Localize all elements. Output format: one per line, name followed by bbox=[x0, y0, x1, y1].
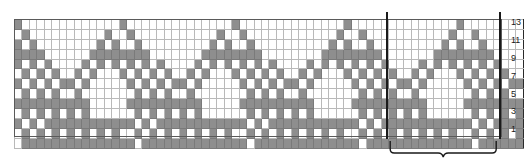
chart-cell bbox=[516, 138, 524, 148]
chart-cell bbox=[22, 99, 29, 109]
chart-cell bbox=[284, 99, 291, 109]
chart-cell bbox=[314, 99, 321, 109]
chart-cell bbox=[351, 89, 358, 99]
chart-cell bbox=[321, 59, 328, 69]
chart-cell bbox=[276, 79, 283, 89]
chart-cell bbox=[389, 20, 396, 30]
chart-cell bbox=[127, 109, 134, 119]
chart-cell bbox=[486, 118, 493, 128]
chart-cell bbox=[314, 109, 321, 119]
chart-cell bbox=[89, 49, 96, 59]
chart-cell bbox=[89, 39, 96, 49]
chart-cell bbox=[127, 69, 134, 79]
chart-cell bbox=[187, 128, 194, 138]
chart-cell bbox=[396, 109, 403, 119]
chart-cell bbox=[419, 59, 426, 69]
chart-cell bbox=[179, 29, 186, 39]
chart-cell bbox=[351, 69, 358, 79]
chart-cell bbox=[29, 128, 36, 138]
chart-cell bbox=[29, 89, 36, 99]
chart-cell bbox=[269, 20, 276, 30]
chart-cell bbox=[411, 79, 418, 89]
chart-cell bbox=[104, 118, 111, 128]
chart-cell bbox=[82, 109, 89, 119]
chart-cell bbox=[194, 99, 201, 109]
chart-cell bbox=[209, 79, 216, 89]
chart-cell bbox=[291, 118, 298, 128]
chart-cell bbox=[224, 49, 231, 59]
chart-cell bbox=[29, 138, 36, 148]
chart-cell bbox=[74, 29, 81, 39]
chart-cell bbox=[486, 128, 493, 138]
chart-cell bbox=[142, 20, 149, 30]
chart-cell bbox=[15, 109, 22, 119]
chart-cell bbox=[419, 99, 426, 109]
repeat-brace bbox=[386, 140, 500, 160]
chart-cell bbox=[104, 89, 111, 99]
chart-cell bbox=[224, 138, 231, 148]
chart-cell bbox=[329, 99, 336, 109]
chart-cell bbox=[209, 69, 216, 79]
chart-cell bbox=[276, 29, 283, 39]
chart-cell bbox=[119, 29, 126, 39]
chart-cell bbox=[411, 59, 418, 69]
chart-cell bbox=[67, 20, 74, 30]
chart-cell bbox=[501, 118, 508, 128]
chart-cell bbox=[127, 138, 134, 148]
chart-cell bbox=[232, 138, 239, 148]
chart-cell bbox=[261, 109, 268, 119]
chart-cell bbox=[449, 99, 456, 109]
chart-cell bbox=[172, 29, 179, 39]
chart-cell bbox=[501, 79, 508, 89]
chart-cell bbox=[321, 79, 328, 89]
chart-cell bbox=[52, 99, 59, 109]
chart-cell bbox=[329, 59, 336, 69]
chart-cell bbox=[389, 49, 396, 59]
chart-cell bbox=[67, 79, 74, 89]
chart-cell bbox=[486, 79, 493, 89]
chart-cell bbox=[344, 79, 351, 89]
chart-cell bbox=[254, 39, 261, 49]
chart-cell bbox=[254, 69, 261, 79]
chart-cell bbox=[44, 20, 51, 30]
chart-cell bbox=[127, 20, 134, 30]
repeat-brace-icon bbox=[386, 140, 500, 160]
chart-cell bbox=[419, 79, 426, 89]
chart-cell bbox=[15, 99, 22, 109]
chart-cell bbox=[149, 99, 156, 109]
chart-cell bbox=[321, 118, 328, 128]
chart-cell bbox=[389, 79, 396, 89]
chart-cell bbox=[247, 69, 254, 79]
chart-cell bbox=[456, 69, 463, 79]
chart-cell bbox=[396, 69, 403, 79]
chart-cell bbox=[202, 49, 209, 59]
chart-cell bbox=[187, 20, 194, 30]
chart-cell bbox=[284, 118, 291, 128]
chart-cell bbox=[314, 79, 321, 89]
chart-cell bbox=[321, 20, 328, 30]
chart-cell bbox=[104, 69, 111, 79]
chart-cell bbox=[284, 69, 291, 79]
chart-cell bbox=[104, 138, 111, 148]
chart-cell bbox=[276, 128, 283, 138]
chart-cell bbox=[456, 59, 463, 69]
chart-cell bbox=[134, 128, 141, 138]
chart-cell bbox=[127, 99, 134, 109]
chart-cell bbox=[261, 99, 268, 109]
chart-cell bbox=[254, 128, 261, 138]
chart-cell bbox=[411, 99, 418, 109]
chart-cell bbox=[15, 20, 22, 30]
chart-cell bbox=[59, 128, 66, 138]
chart-cell bbox=[164, 109, 171, 119]
chart-cell bbox=[67, 138, 74, 148]
chart-cell bbox=[291, 128, 298, 138]
chart-cell bbox=[389, 39, 396, 49]
chart-cell bbox=[119, 109, 126, 119]
chart-cell bbox=[359, 49, 366, 59]
chart-cell bbox=[82, 69, 89, 79]
chart-cell bbox=[464, 59, 471, 69]
chart-cell bbox=[239, 138, 246, 148]
chart-cell bbox=[404, 79, 411, 89]
chart-cell bbox=[164, 39, 171, 49]
chart-row bbox=[15, 99, 524, 109]
